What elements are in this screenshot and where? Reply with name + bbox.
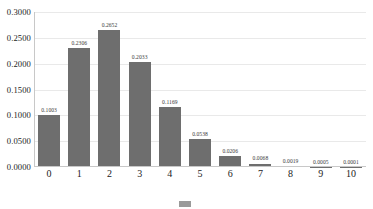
bar[interactable]: 0.1169 (159, 107, 181, 167)
x-axis-tick-label: 0 (34, 169, 64, 179)
x-axis-tick-label: 6 (215, 169, 245, 179)
bar[interactable]: 0.2033 (129, 62, 151, 167)
bar[interactable]: 0.1003 (38, 115, 60, 167)
bar-value-label: 0.1169 (162, 100, 177, 106)
bar-slot: 0.1169 (155, 12, 185, 167)
x-axis-tick-label: 5 (185, 169, 215, 179)
x-axis-tick-label: 3 (125, 169, 155, 179)
x-axis-tick-label: 8 (276, 169, 306, 179)
bar-slot: 0.1003 (34, 12, 64, 167)
x-axis-tick-label: 7 (245, 169, 275, 179)
bar-slot: 0.0019 (276, 12, 306, 167)
bar-value-label: 0.2306 (71, 41, 87, 47)
bar-chart: 0.00000.05000.10000.15000.20000.25000.30… (0, 0, 373, 209)
bar-value-label: 0.0005 (313, 160, 329, 166)
bar[interactable]: 0.2652 (98, 30, 120, 167)
bar-value-label: 0.0206 (222, 149, 238, 155)
x-axis-tick-label: 9 (306, 169, 336, 179)
bar[interactable]: 0.0538 (189, 139, 211, 167)
y-axis-tick-label: 0.2000 (0, 59, 31, 68)
bar-value-label: 0.2033 (132, 55, 148, 61)
y-axis-tick-label: 0.0500 (0, 137, 31, 146)
bar-value-label: 0.0538 (192, 132, 208, 138)
bar-slot: 0.0001 (336, 12, 366, 167)
bar-slot: 0.2306 (64, 12, 94, 167)
bar-value-label: 0.0068 (253, 156, 269, 162)
x-axis-tick-labels: 012345678910 (34, 169, 366, 179)
x-axis-line (34, 166, 366, 167)
plot-area: 0.10030.23060.26520.20330.11690.05380.02… (34, 12, 366, 167)
bar-slot: 0.0206 (215, 12, 245, 167)
x-axis-tick-label: 4 (155, 169, 185, 179)
y-axis-tick-label: 0.1000 (0, 111, 31, 120)
bar-value-label: 0.2652 (102, 23, 118, 29)
bar-slot: 0.2652 (94, 12, 124, 167)
bar-series: 0.10030.23060.26520.20330.11690.05380.02… (34, 12, 366, 167)
x-axis-tick-label: 2 (94, 169, 124, 179)
legend-swatch-icon (179, 201, 191, 207)
y-axis-tick-label: 0.2500 (0, 34, 31, 43)
bar-value-label: 0.1003 (41, 108, 57, 114)
y-axis-tick-label: 0.0000 (0, 163, 31, 172)
bar[interactable]: 0.2306 (68, 48, 90, 167)
bar-value-label: 0.0001 (343, 160, 359, 166)
x-axis-tick-label: 1 (64, 169, 94, 179)
y-axis-tick-label: 0.3000 (0, 8, 31, 17)
y-axis-tick-label: 0.1500 (0, 85, 31, 94)
bar-slot: 0.0538 (185, 12, 215, 167)
x-axis-tick-label: 10 (336, 169, 366, 179)
bar-value-label: 0.0019 (283, 159, 299, 165)
bar-slot: 0.2033 (125, 12, 155, 167)
bar-slot: 0.0068 (245, 12, 275, 167)
bar-slot: 0.0005 (306, 12, 336, 167)
chart-legend (0, 199, 373, 209)
